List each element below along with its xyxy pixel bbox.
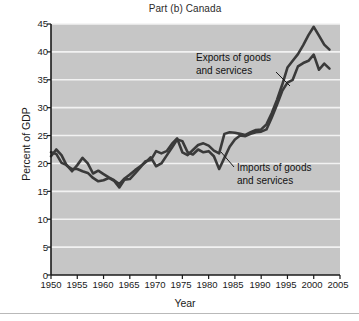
imports-annotation-line1: Imports of goods (237, 162, 311, 175)
imports-annotation-line2: and services (237, 175, 311, 188)
plot-area (0, 0, 359, 321)
exports-annotation: Exports of goods and services (196, 52, 271, 77)
exports-annotation-line1: Exports of goods (196, 52, 271, 65)
imports-annotation: Imports of goods and services (237, 162, 311, 187)
chart-figure: Part (b) Canada Percent of GDP Year 45 4… (0, 0, 359, 321)
exports-annotation-line2: and services (196, 65, 271, 78)
footer-rule (0, 313, 359, 314)
